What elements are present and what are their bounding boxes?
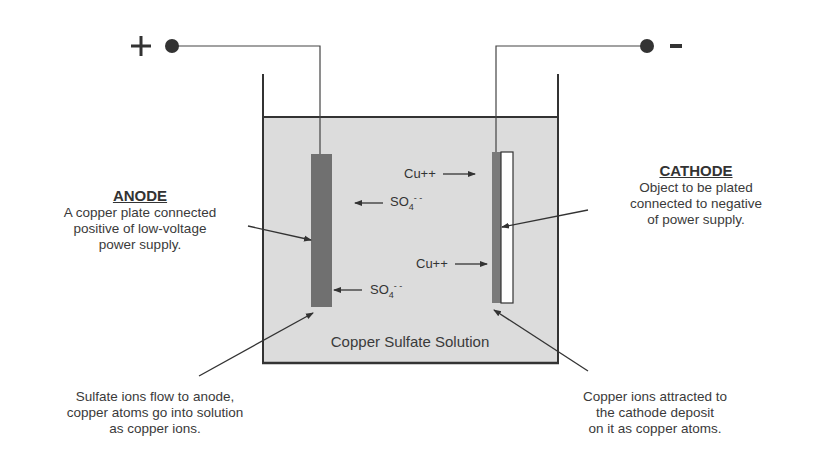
solution-label-text: Copper Sulfate Solution: [331, 333, 489, 350]
ion-formula: Cu++: [416, 256, 448, 271]
cathode-label: CATHODE Object to be plated connected to…: [596, 162, 796, 228]
copper-sulfate-solution: [263, 117, 558, 363]
cathode-description-line: Object to be plated: [596, 180, 796, 196]
ion-subscript: 4: [409, 202, 414, 212]
so4-ion-label-top: SO4- -: [390, 193, 422, 212]
plus-sign-icon: [131, 36, 151, 56]
anode-note-line: as copper ions.: [30, 421, 280, 437]
cu-ion-label-top: Cu++: [404, 166, 436, 181]
anode-plate: [311, 154, 332, 307]
anode-note-line: Sulfate ions flow to anode,: [30, 389, 280, 405]
ion-charge: - -: [414, 193, 423, 203]
so4-ion-label-bottom: SO4- -: [370, 281, 402, 300]
ion-subscript: 4: [389, 290, 394, 300]
ion-charge: - -: [394, 281, 403, 291]
anode-description-line: positive of low-voltage: [20, 221, 260, 237]
cathode-note-line: on it as copper atoms.: [545, 421, 765, 437]
positive-terminal-dot-icon: [165, 39, 179, 53]
cathode-heading: CATHODE: [596, 162, 796, 180]
anode-heading: ANODE: [20, 187, 260, 205]
cathode-note: Copper ions attracted to the cathode dep…: [545, 389, 765, 437]
anode-label: ANODE A copper plate connected positive …: [20, 187, 260, 253]
cathode-note-line: Copper ions attracted to: [545, 389, 765, 405]
ion-formula: Cu++: [404, 166, 436, 181]
cu-ion-label-bottom: Cu++: [416, 256, 448, 271]
cathode-description-line: of power supply.: [596, 212, 796, 228]
anode-note-line: copper atoms go into solution: [30, 405, 280, 421]
anode-description-line: A copper plate connected: [20, 205, 260, 221]
negative-terminal-dot-icon: [640, 39, 654, 53]
ion-formula: SO: [370, 282, 389, 297]
cathode-description-line: connected to negative: [596, 196, 796, 212]
ion-formula: SO: [390, 194, 409, 209]
cathode-note-line: the cathode deposit: [545, 405, 765, 421]
solution-label: Copper Sulfate Solution: [295, 334, 525, 350]
anode-description-line: power supply.: [20, 237, 260, 253]
anode-note: Sulfate ions flow to anode, copper atoms…: [30, 389, 280, 437]
